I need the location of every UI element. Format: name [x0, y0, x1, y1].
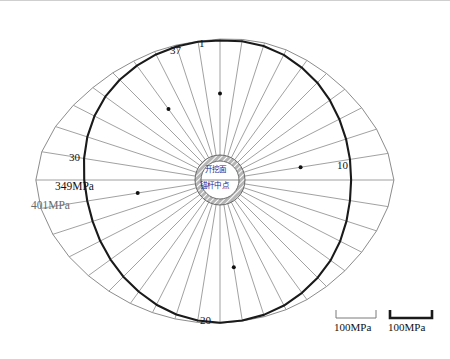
spoke-label-10: 10 — [337, 160, 348, 171]
scale-bar-thick — [390, 310, 432, 318]
spoke-39 — [176, 45, 212, 156]
center-label-bolt-midpoint: 锚杆中点 — [200, 182, 229, 190]
curve-label-401mpa: 401MPa — [31, 200, 70, 212]
scale-bar-thin-label: 100MPa — [334, 322, 371, 333]
spoke-label-1: 1 — [199, 38, 205, 49]
scale-bar-thin — [336, 310, 376, 318]
center-hub-group — [190, 150, 250, 210]
spoke-14 — [242, 191, 361, 252]
spoke-17 — [235, 200, 307, 299]
spoke-dot-1 — [218, 92, 222, 96]
spoke-16 — [238, 198, 327, 287]
spoke-15 — [240, 195, 345, 271]
spoke-22 — [197, 205, 216, 323]
spoke-dot-37 — [166, 107, 170, 111]
spoke-label-30: 30 — [69, 152, 80, 163]
scale-bar-thick-bracket — [390, 310, 432, 318]
spoke-35 — [93, 88, 200, 166]
spoke-25 — [130, 200, 205, 303]
scale-bar-thick-label: 100MPa — [388, 322, 425, 333]
spoke-40 — [198, 41, 216, 155]
spoke-20 — [224, 205, 242, 321]
spoke-6 — [238, 73, 327, 162]
spoke-3 — [228, 43, 265, 156]
spoke-label-37: 37 — [170, 45, 181, 56]
spoke-2 — [224, 39, 242, 155]
spoke-36 — [113, 73, 203, 163]
center-label-excavation-face: 开挖面 — [205, 166, 227, 174]
spoke-5 — [235, 60, 307, 159]
spoke-29 — [53, 188, 196, 235]
spoke-24 — [152, 202, 208, 312]
spoke-dot-10 — [299, 165, 303, 169]
spoke-28 — [69, 191, 198, 256]
curve-label-349mpa: 349MPa — [55, 181, 94, 193]
spoke-dot-30 — [136, 191, 140, 195]
spoke-19 — [228, 204, 265, 317]
spoke-dot-20 — [232, 265, 236, 269]
scale-bar-thin-bracket — [336, 310, 376, 318]
spoke-27 — [88, 195, 199, 276]
spoke-34 — [73, 105, 197, 168]
spoke-label-20: 20 — [200, 315, 211, 326]
spoke-23 — [175, 204, 212, 319]
